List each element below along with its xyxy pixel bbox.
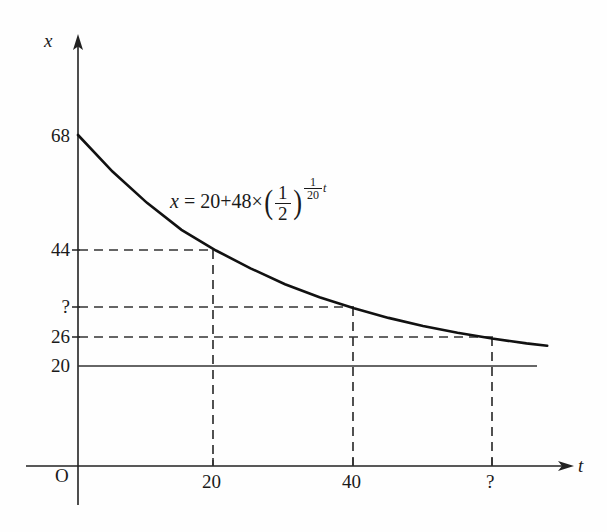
equation-equals: = — [184, 190, 195, 212]
equation-lhs: x — [170, 190, 179, 212]
equation-annotation: x = 20+48×(12)120t — [170, 183, 326, 224]
y-tick-label-unknown: ? — [32, 297, 70, 316]
equation-exponent-variable: t — [323, 180, 326, 194]
y-axis-ticks — [72, 250, 80, 337]
y-axis-label: x — [44, 31, 52, 50]
x-axis-label: t — [578, 456, 583, 475]
x-tick-label-unknown: ? — [486, 472, 494, 491]
decay-curve — [78, 135, 547, 346]
y-tick-label-68: 68 — [32, 126, 70, 145]
equation-plus: + — [220, 190, 231, 212]
y-tick-label-26: 26 — [32, 327, 70, 346]
x-tick-label-40: 40 — [342, 472, 361, 491]
y-tick-label-44: 44 — [32, 240, 70, 259]
equation-base-numerator: 1 — [275, 183, 291, 204]
y-axis — [73, 34, 83, 505]
equation-exponent: 120t — [303, 176, 326, 202]
y-tick-label-20: 20 — [32, 356, 70, 375]
equation-base-denominator: 2 — [275, 204, 291, 224]
x-tick-label-20: 20 — [202, 472, 221, 491]
equation-exponent-numerator: 1 — [304, 176, 322, 190]
equation-right-paren: ) — [293, 185, 302, 219]
chart-plot-area — [0, 0, 607, 532]
equation-exponent-fraction: 120 — [304, 176, 322, 202]
equation-left-paren: ( — [264, 185, 273, 219]
chart-figure: x t O 68 44 ? 26 20 20 40 ? x = 20+48×(1… — [0, 0, 607, 532]
equation-base-fraction: 12 — [275, 183, 291, 224]
equation-coefficient: 48 — [231, 190, 251, 212]
equation-exponent-denominator: 20 — [304, 189, 322, 202]
equation-times: × — [251, 190, 262, 212]
equation-constant: 20 — [200, 190, 220, 212]
origin-label: O — [55, 466, 69, 485]
